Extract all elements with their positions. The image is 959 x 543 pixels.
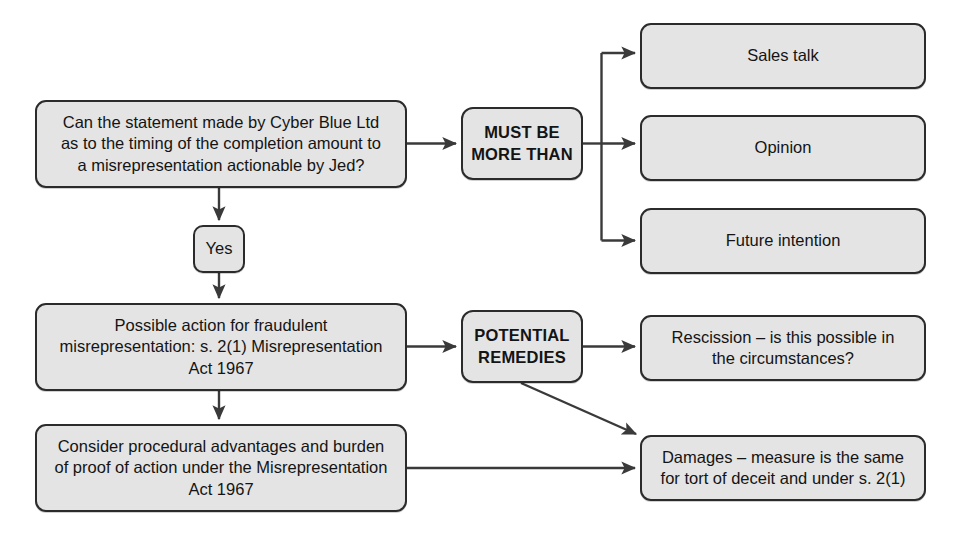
node-consider-procedural[interactable]: Consider procedural advantages and burde…: [35, 424, 407, 512]
node-consider-procedural-label: Consider procedural advantages and burde…: [47, 436, 396, 500]
node-future-intention[interactable]: Future intention: [640, 208, 926, 274]
node-sales-talk-label: Sales talk: [739, 45, 827, 66]
node-opinion[interactable]: Opinion: [640, 115, 926, 181]
node-must-be-more-than[interactable]: MUST BE MORE THAN: [461, 107, 583, 180]
node-potential-remedies[interactable]: POTENTIAL REMEDIES: [461, 310, 583, 383]
edge-potential-to-damages: [521, 383, 636, 434]
node-question-label: Can the statement made by Cyber Blue Ltd…: [53, 112, 389, 176]
node-damages[interactable]: Damages – measure is the same for tort o…: [640, 435, 926, 501]
node-question[interactable]: Can the statement made by Cyber Blue Ltd…: [35, 100, 407, 188]
node-possible-action[interactable]: Possible action for fraudulent misrepres…: [35, 303, 407, 391]
flowchart-canvas: Can the statement made by Cyber Blue Ltd…: [0, 0, 959, 543]
node-damages-label: Damages – measure is the same for tort o…: [653, 447, 914, 490]
node-possible-action-label: Possible action for fraudulent misrepres…: [52, 315, 391, 379]
node-rescission-label: Rescission – is this possible in the cir…: [664, 327, 903, 370]
node-sales-talk[interactable]: Sales talk: [640, 23, 926, 89]
node-rescission[interactable]: Rescission – is this possible in the cir…: [640, 315, 926, 381]
node-must-be-more-than-label: MUST BE MORE THAN: [463, 122, 581, 165]
node-future-intention-label: Future intention: [718, 230, 849, 251]
node-potential-remedies-label: POTENTIAL REMEDIES: [466, 325, 577, 368]
node-opinion-label: Opinion: [747, 137, 820, 158]
node-yes[interactable]: Yes: [193, 225, 245, 273]
node-yes-label: Yes: [198, 238, 241, 259]
